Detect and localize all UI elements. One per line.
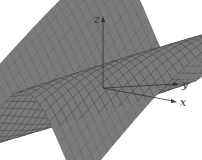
surface-plot: z y x — [0, 0, 202, 160]
x-axis-arrowhead — [171, 99, 177, 103]
x-axis-label: x — [180, 96, 187, 109]
y-axis-label: y — [181, 78, 189, 91]
surface-mesh — [0, 0, 202, 160]
z-axis-label: z — [93, 13, 100, 26]
